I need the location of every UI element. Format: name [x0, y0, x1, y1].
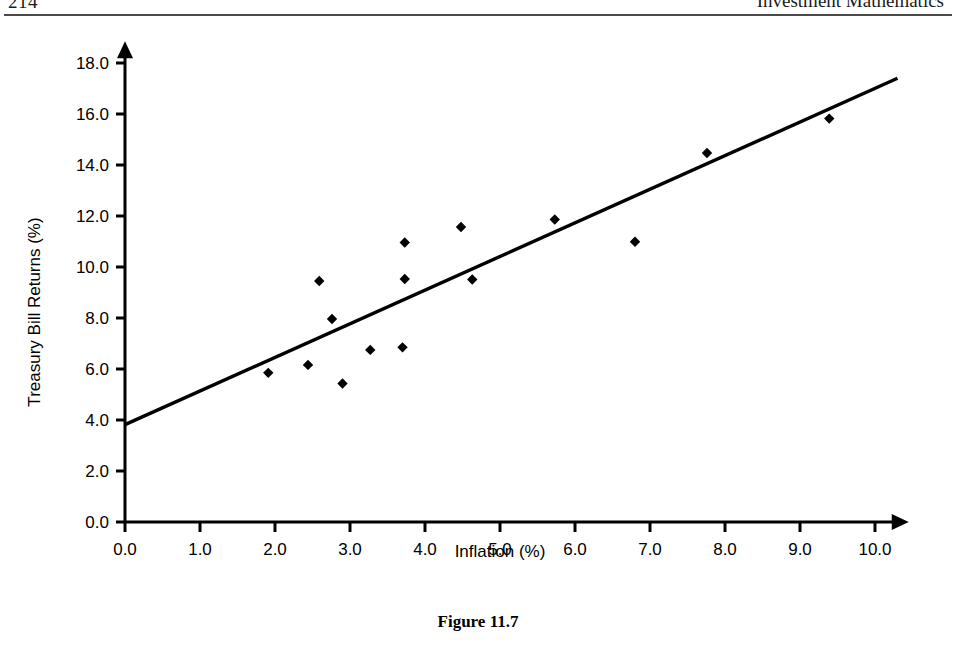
- data-point-marker: [467, 274, 477, 284]
- y-tick-label: 0.0: [85, 513, 109, 532]
- y-tick-label: 14.0: [76, 156, 109, 175]
- figure-caption: Figure 11.7: [0, 612, 956, 632]
- data-point-marker: [314, 276, 324, 286]
- data-point-marker: [702, 148, 712, 158]
- y-tick-label: 12.0: [76, 207, 109, 226]
- page-number: 214: [8, 0, 38, 13]
- y-tick-label: 8.0: [85, 309, 109, 328]
- x-tick-label: 8.0: [713, 540, 737, 559]
- y-axis-title: Treasury Bill Returns (%): [25, 217, 44, 406]
- x-tick-label: 9.0: [788, 540, 812, 559]
- data-point-marker: [303, 360, 313, 370]
- data-point-marker: [263, 368, 273, 378]
- data-point-marker: [630, 237, 640, 247]
- data-point-marker: [456, 222, 466, 232]
- x-tick-label: 7.0: [638, 540, 662, 559]
- y-tick-label: 18.0: [76, 54, 109, 73]
- data-point-marker: [327, 314, 337, 324]
- data-point-marker: [824, 113, 834, 123]
- x-tick-label: 2.0: [263, 540, 287, 559]
- trendline: [125, 78, 898, 424]
- x-tick-label: 0.0: [113, 540, 137, 559]
- figure-block: 0.02.04.06.08.010.012.014.016.018.0 0.01…: [0, 22, 956, 662]
- header-rule: [4, 14, 952, 16]
- y-tick-label: 6.0: [85, 360, 109, 379]
- x-tick-label: 1.0: [188, 540, 212, 559]
- data-point-marker: [365, 345, 375, 355]
- data-point-marker: [337, 378, 347, 388]
- y-tick-label: 2.0: [85, 462, 109, 481]
- running-head: Investment Mathematics: [757, 0, 944, 12]
- data-point-marker: [400, 237, 410, 247]
- y-tick-label: 16.0: [76, 105, 109, 124]
- page-header: 214 Investment Mathematics: [0, 0, 956, 22]
- data-points: [263, 113, 834, 388]
- x-tick-label: 3.0: [338, 540, 362, 559]
- x-axis-title: Inflation (%): [455, 542, 546, 561]
- y-tick-label: 4.0: [85, 411, 109, 430]
- x-tick-label: 6.0: [563, 540, 587, 559]
- scatter-plot: 0.02.04.06.08.010.012.014.016.018.0 0.01…: [0, 22, 956, 602]
- y-axis-ticks: 0.02.04.06.08.010.012.014.016.018.0: [76, 54, 125, 532]
- axis-lines: [117, 41, 909, 530]
- data-point-marker: [397, 342, 407, 352]
- data-point-marker: [400, 274, 410, 284]
- x-tick-label: 4.0: [413, 540, 437, 559]
- y-tick-label: 10.0: [76, 258, 109, 277]
- data-point-marker: [550, 214, 560, 224]
- x-tick-label: 10.0: [858, 540, 891, 559]
